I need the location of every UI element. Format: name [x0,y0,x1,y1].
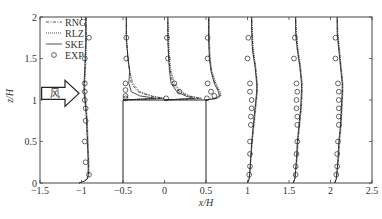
exp-marker [292,56,297,61]
wind-arrow: 风 [42,80,79,106]
exp-marker [336,81,341,86]
ske-line [248,17,257,183]
rlz-line [123,17,165,100]
exp-marker [83,160,88,165]
legend-item-ske: SKE [46,39,84,50]
exp-marker [212,93,217,98]
x-tick-label: −0.5 [114,185,132,196]
x-tick-label: 0 [162,185,167,196]
y-tick-label: 0 [32,178,37,189]
exp-marker [83,118,88,123]
exp-marker [205,35,210,40]
exp-marker [123,88,128,93]
profile-lines [79,17,343,183]
y-axis-label: z/H [4,88,15,104]
ske-line [123,17,156,100]
profile-station-0.5 [204,17,221,101]
exp-marker [336,89,341,94]
x-tick-label: 2.5 [366,185,379,196]
building-outline [123,100,206,183]
profile-station-0 [164,17,202,101]
exp-marker [246,35,251,40]
x-tick-labels: −1.5−1−0.500.511.522.5 [31,185,378,196]
exp-marker [87,172,92,177]
x-tick-label: 0.5 [200,185,213,196]
exp-marker [294,106,299,111]
x-tick-label: −1 [76,185,87,196]
exp-marker [248,89,253,94]
exp-marker [165,56,170,61]
exp-marker [248,152,253,157]
x-axis-label: x/H [198,197,214,208]
exp-marker [205,81,210,86]
exp-marker [295,89,300,94]
legend-item-rng: RNG [46,17,86,28]
exp-marker [248,114,253,119]
exp-marker [336,98,341,103]
legend-item-exp: EXP [52,50,85,61]
legend-label: RNG [65,17,86,28]
y-tick-label: 2 [32,12,37,23]
x-tick-label: 2 [328,185,333,196]
exp-marker [294,98,299,103]
velocity-profile-chart: 风 −1.5−1−0.500.511.522.5 00.511.52 x/H z… [0,0,382,219]
legend: RNGRLZSKEEXP [46,17,86,61]
legend-label: EXP [65,50,84,61]
exp-marker [248,123,253,128]
exp-marker [295,114,300,119]
exp-marker [333,56,338,61]
profile-station-1.5 [292,17,303,183]
exp-marker [248,81,253,86]
profile-station--0.5 [123,17,165,101]
legend-marker-circle [52,53,57,58]
legend-label: RLZ [65,28,84,39]
exp-marker [123,81,128,86]
y-tick-label: 1.5 [25,53,38,64]
legend-item-rlz: RLZ [46,28,84,39]
y-tick-label: 0.5 [25,136,38,147]
exp-marker [336,106,341,111]
y-tick-labels: 00.511.52 [25,12,38,189]
exp-marker [249,98,254,103]
x-tick-label: 1 [245,185,250,196]
exp-marker [87,35,92,40]
exp-marker [249,106,254,111]
rng-line [165,17,200,100]
x-tick-label: 1.5 [283,185,296,196]
y-tick-label: 1 [32,95,37,106]
exp-marker [209,89,214,94]
building-rect [123,100,206,183]
wind-label: 风 [50,88,60,99]
exp-marker [82,139,87,144]
profile-station-2 [333,17,343,183]
exp-marker [245,56,250,61]
exp-marker [336,139,341,144]
profile-station-1 [245,17,257,183]
legend-label: SKE [65,39,84,50]
exp-marker [294,81,299,86]
